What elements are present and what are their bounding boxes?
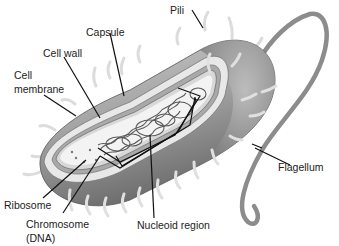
label-nucleoid-region: Nucleoid region [137,219,210,231]
label-ribosome: Ribosome [4,199,51,211]
label-flagellum: Flagellum [278,161,324,173]
label-cell-membrane-line2: membrane [14,83,64,95]
label-chromosome-line2: (DNA) [26,232,55,244]
label-cell-membrane-line1: Cell [14,69,32,81]
label-cell-wall: Cell wall [43,47,82,59]
label-capsule: Capsule [86,26,125,38]
label-chromosome-line1: Chromosome [26,218,89,230]
label-pili: Pili [170,4,184,16]
